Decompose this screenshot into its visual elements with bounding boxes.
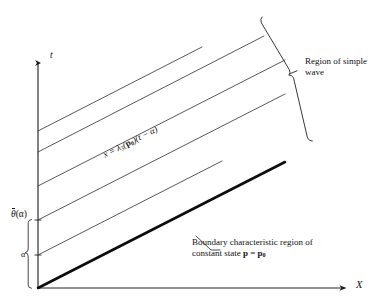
diagram-svg: [0, 0, 388, 307]
boundary-annotation-p0-subscript: 0: [263, 252, 266, 258]
right-brace-path: [261, 17, 313, 141]
characteristic-line-5: [38, 47, 202, 131]
theta-bar-tick-label: θ(α): [11, 209, 27, 220]
characteristic-line-2: [38, 94, 285, 220]
region-of-simple-wave-annotation: Region of simple wave: [305, 56, 385, 77]
right-brace: [261, 17, 313, 141]
figure-canvas: t X θ(α) α Region of simple wave Boundar…: [0, 0, 388, 307]
left-brace-path: [25, 220, 31, 289]
boundary-annotation-line1: Boundary characteristic region of: [192, 237, 313, 247]
boundary-annotation-equals: =: [248, 248, 258, 258]
right-brace-pointer: [291, 71, 298, 74]
t-axis-label: t: [50, 50, 53, 61]
x-axis-label: X: [356, 279, 362, 291]
boundary-characteristic-annotation: Boundary characteristic region ofconstan…: [192, 237, 382, 259]
boundary-annotation-line2-prefix: constant state: [192, 248, 243, 258]
characteristic-line-3: [38, 60, 285, 186]
boundary-characteristic-line: [38, 162, 285, 288]
theta-symbol: θ: [11, 209, 16, 220]
theta-bar-argument: (α): [16, 209, 27, 219]
characteristic-lines: [38, 36, 285, 255]
alpha-tick-label: α: [21, 249, 25, 259]
